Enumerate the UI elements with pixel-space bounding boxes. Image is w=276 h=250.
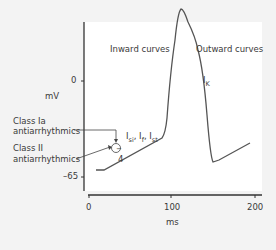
x-tick-label-200: 200	[247, 202, 263, 212]
class-ii-label-line2: antiarrhythmics	[13, 154, 80, 164]
y-tick-label-0: 0	[71, 75, 76, 85]
ik-sub: K	[206, 80, 210, 88]
isi-if-ist-label: Isi, If, Ist	[126, 131, 158, 145]
class-ia-leader	[74, 130, 116, 140]
phase-4-label: 4	[118, 154, 123, 164]
class-ii-label-line1: Class II	[13, 143, 43, 153]
ik-label: IK	[203, 75, 210, 89]
x-axis-unit: ms	[166, 217, 179, 227]
class-ia-label-line1: Class Ia	[13, 116, 46, 126]
y-tick-label-neg65: –65	[63, 171, 78, 181]
class-ii-leader	[76, 147, 110, 159]
class-ia-label-line2: antiarrhythmics	[13, 126, 80, 136]
sep1: , I	[134, 131, 142, 141]
x-tick-label-0: 0	[86, 202, 91, 212]
y-axis-unit: mV	[45, 91, 59, 101]
inward-curves-label: Inward curves	[110, 44, 170, 54]
minus-sign: −	[116, 144, 122, 154]
outward-curves-label: Outward curves	[196, 44, 263, 54]
class-ia-arrowhead	[114, 139, 118, 143]
x-tick-label-100: 100	[164, 202, 180, 212]
ist-sub: st	[152, 136, 158, 144]
sep2: , I	[144, 131, 152, 141]
